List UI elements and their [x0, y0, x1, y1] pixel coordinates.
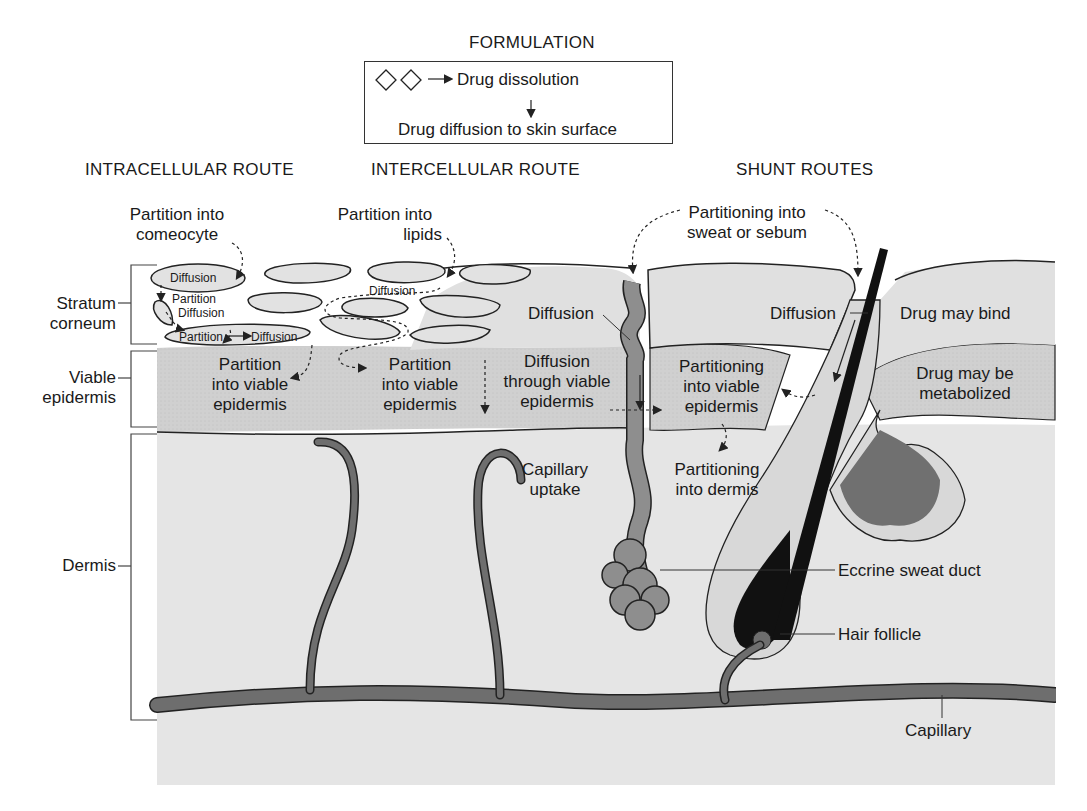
partition-label-2: Partition — [179, 330, 223, 344]
partitioning-sweat-sebum-label: Partitioning intosweat or sebum — [672, 203, 822, 243]
dermis-label: Dermis — [46, 556, 116, 576]
partition-corneocyte-label: Partition intocomeocyte — [112, 205, 242, 245]
stratum-corneum-label: Stratumcorneum — [44, 294, 116, 334]
diffusion-label-3: Diffusion — [251, 330, 297, 344]
hair-follicle-label: Hair follicle — [838, 625, 921, 645]
layer-brackets — [118, 265, 157, 720]
sweat-duct-diffusion-label: Diffusion — [528, 304, 594, 324]
drug-may-bind-label: Drug may bind — [900, 304, 1011, 324]
partitioning-viable-label: Partitioninginto viableepidermis — [664, 357, 779, 417]
drug-diffusion-label: Drug diffusion to skin surface — [398, 120, 617, 140]
diffusion-label-1: Diffusion — [170, 271, 216, 285]
formulation-title: FORMULATION — [469, 33, 595, 53]
shunt-diffusion-label: Diffusion — [770, 304, 836, 324]
capillary-label: Capillary — [905, 721, 971, 741]
intracellular-partition-viable-label: Partitioninto viableepidermis — [195, 355, 305, 415]
eccrine-sweat-duct-label: Eccrine sweat duct — [838, 561, 981, 581]
viable-epidermis-label: Viableepidermis — [26, 368, 116, 408]
capillary-uptake-label: Capillaryuptake — [510, 460, 600, 500]
drug-metabolized-label: Drug may bemetabolized — [900, 364, 1030, 404]
partition-label-1: Partition — [172, 292, 216, 306]
intercellular-route-header: INTERCELLULAR ROUTE — [371, 160, 580, 180]
partition-lipids-label: Partition intolipids — [320, 205, 450, 245]
drug-dissolution-label: Drug dissolution — [457, 70, 579, 90]
partitioning-dermis-label: Partitioninginto dermis — [662, 460, 772, 500]
intracellular-route-header: INTRACELLULAR ROUTE — [85, 160, 294, 180]
diffusion-label-2: Diffusion — [178, 306, 224, 320]
diffusion-through-viable-label: Diffusionthrough viableepidermis — [492, 352, 622, 412]
intercellular-diffusion-label: Diffusion — [369, 284, 415, 298]
shunt-routes-header: SHUNT ROUTES — [736, 160, 873, 180]
intercellular-partition-viable-label: Partitioninto viableepidermis — [365, 355, 475, 415]
